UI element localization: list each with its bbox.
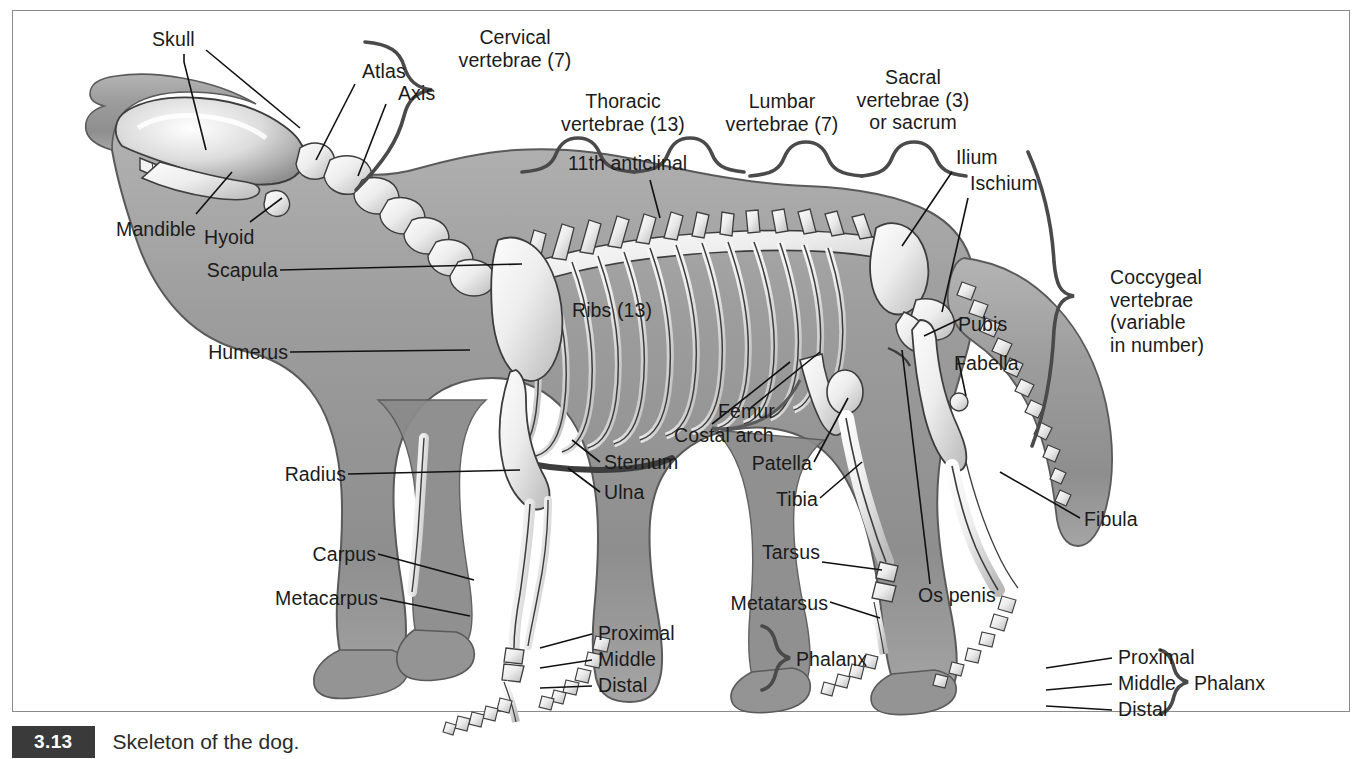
label-humerus: Humerus [208,341,288,364]
figure-skeleton-of-the-dog: Skull Atlas Axis Mandible Hyoid Scapula … [0,0,1363,759]
label-fibula: Fibula [1084,508,1138,531]
leader-proximal-l [540,634,592,648]
label-distal-left: Distal [598,674,647,697]
label-fabella: Fabella [954,352,1019,375]
hyoid-bone [264,191,290,217]
label-radius: Radius [285,463,346,486]
label-cervical-group: Cervical vertebrae (7) [459,26,572,71]
leader-proximal-r [1046,658,1112,668]
label-hyoid: Hyoid [204,226,254,249]
label-proximal-left: Proximal [598,622,675,645]
sacral-brace [862,142,966,176]
label-femur: Femur [718,400,775,423]
label-ischium: Ischium [970,172,1038,195]
figure-number-badge: 3.13 [12,726,95,758]
label-middle-right: Middle [1118,672,1176,695]
figure-caption-text: Skeleton of the dog. [113,730,300,754]
label-pubis: Pubis [958,313,1007,336]
label-ulna: Ulna [604,481,645,504]
patella-bone [827,370,863,414]
label-costal-arch: Costal arch [674,424,774,447]
leader-distal-l [540,686,592,688]
label-anticlinal: 11th anticlinal [568,152,687,175]
label-mandible: Mandible [116,218,196,241]
label-carpus: Carpus [313,543,376,566]
label-ilium: Ilium [956,146,998,169]
label-metacarpus: Metacarpus [275,587,378,610]
label-proximal-right: Proximal [1118,646,1195,669]
figure-caption: 3.13 Skeleton of the dog. [12,726,299,758]
leader-tarsus [822,562,882,570]
label-phalanx-right: Phalanx [1194,672,1265,695]
label-distal-right: Distal [1118,698,1167,721]
label-metatarsus: Metatarsus [731,592,828,615]
label-axis: Axis [398,82,435,105]
label-middle-left: Middle [598,648,656,671]
label-ribs: Ribs (13) [572,299,652,322]
label-thoracic-group: Thoracic vertebrae (13) [561,90,685,135]
label-sternum: Sternum [604,451,678,474]
leader-axis [358,104,386,176]
leader-distal-r [1046,706,1112,710]
label-skull: Skull [152,28,195,51]
label-tarsus: Tarsus [762,541,820,564]
leader-middle-l [540,660,592,668]
label-sacral-group: Sacral vertebrae (3) or sacrum [857,66,970,134]
label-os-penis: Os penis [918,584,996,607]
lumbar-brace [750,142,862,176]
leader-atlas [316,84,355,160]
label-phalanx-left: Phalanx [796,648,867,671]
leader-middle-r [1046,684,1112,690]
label-tibia: Tibia [776,488,818,511]
label-lumbar-group: Lumbar vertebrae (7) [726,90,839,135]
label-atlas: Atlas [362,60,406,83]
label-patella: Patella [752,452,812,475]
label-scapula: Scapula [207,259,278,282]
label-coccygeal-group: Coccygeal vertebrae (variable in number) [1110,266,1204,356]
